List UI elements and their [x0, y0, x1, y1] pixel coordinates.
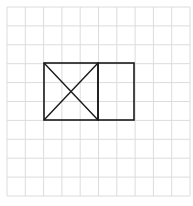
rectangle-shape: [98, 63, 134, 120]
grid-diagram: [0, 0, 193, 206]
figure: [44, 63, 134, 120]
